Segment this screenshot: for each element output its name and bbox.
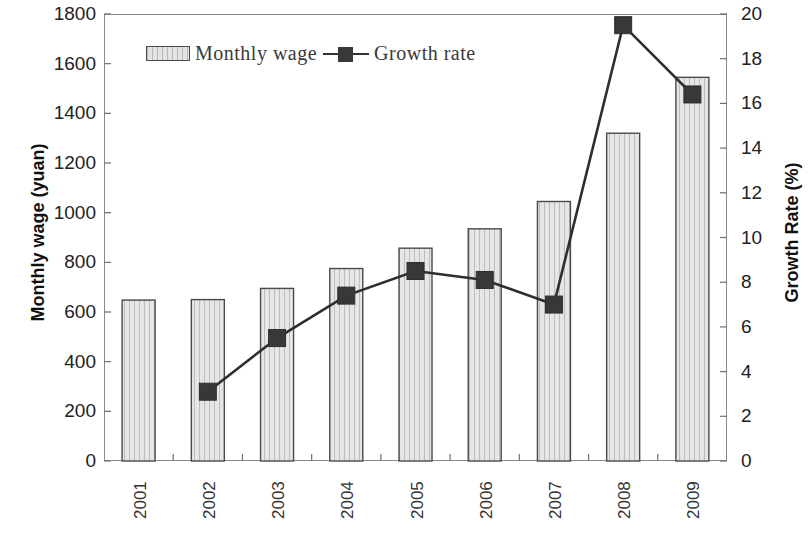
y-axis-left-tick-label: 1600	[36, 54, 96, 73]
y-axis-right-tick-label: 8	[741, 272, 801, 291]
x-axis-tick-label: 2001	[131, 481, 151, 519]
y-axis-right-tick-label: 6	[741, 317, 801, 336]
y-axis-right-tick-label: 16	[741, 93, 801, 112]
bar	[468, 229, 501, 461]
y-axis-left-tick-label: 800	[36, 252, 96, 271]
data-point-marker	[407, 263, 424, 280]
y-axis-left-tick-label: 400	[36, 352, 96, 371]
data-point-marker	[684, 86, 701, 103]
y-axis-right-tick-label: 0	[741, 451, 801, 470]
bar	[537, 201, 570, 461]
data-point-marker	[338, 287, 355, 304]
bar	[676, 77, 709, 461]
y-axis-right-tick-label: 12	[741, 183, 801, 202]
chart-container: Monthly wage (yuan) Growth Rate (%) 0200…	[0, 0, 811, 545]
bar	[399, 248, 432, 461]
bar	[261, 288, 294, 461]
y-axis-left-tick-label: 1000	[36, 203, 96, 222]
x-axis-tick-label: 2003	[269, 481, 289, 519]
y-axis-right-tick-label: 18	[741, 49, 801, 68]
data-point-marker	[476, 271, 493, 288]
x-axis-tick-label: 2006	[477, 481, 497, 519]
y-axis-left-tick-label: 1200	[36, 153, 96, 172]
y-axis-left-tick-label: 600	[36, 302, 96, 321]
y-axis-right-tick-label: 2	[741, 406, 801, 425]
chart-data-layer	[104, 14, 727, 461]
y-axis-right-tick-label: 20	[741, 4, 801, 23]
y-axis-left-tick-label: 0	[36, 451, 96, 470]
data-point-marker	[545, 296, 562, 313]
bar	[607, 133, 640, 461]
y-axis-left-tick-label: 200	[36, 401, 96, 420]
y-axis-left-title: Monthly wage (yuan)	[28, 103, 49, 363]
x-axis-tick-label: 2002	[200, 481, 220, 519]
y-axis-right-tick-label: 4	[741, 362, 801, 381]
x-axis-tick-label: 2009	[684, 481, 704, 519]
data-point-marker	[615, 17, 632, 34]
data-point-marker	[269, 330, 286, 347]
y-axis-right-tick-label: 10	[741, 228, 801, 247]
x-axis-tick-label: 2008	[615, 481, 635, 519]
x-axis-tick-label: 2004	[338, 481, 358, 519]
bar	[122, 300, 155, 461]
y-axis-right-tick-label: 14	[741, 138, 801, 157]
y-axis-left-tick-label: 1800	[36, 4, 96, 23]
x-axis-tick-label: 2005	[408, 481, 428, 519]
data-point-marker	[199, 383, 216, 400]
bar	[191, 300, 224, 461]
x-axis-tick-label: 2007	[546, 481, 566, 519]
y-axis-left-tick-label: 1400	[36, 103, 96, 122]
